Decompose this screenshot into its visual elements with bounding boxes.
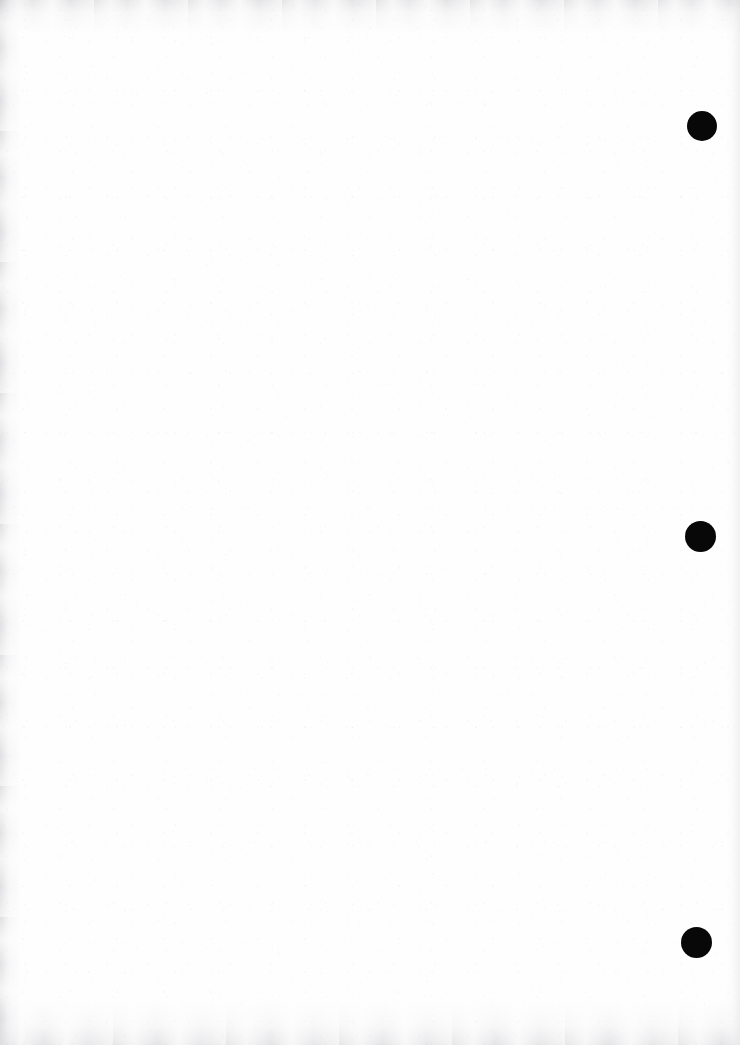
scan-edge-top <box>0 0 740 34</box>
scan-edge-right <box>726 0 740 1045</box>
scan-edge-left <box>0 0 22 1045</box>
punch-dot-3 <box>681 927 712 958</box>
paper-grain-texture <box>0 0 740 1045</box>
punch-dot-1 <box>687 111 717 141</box>
punch-dot-2 <box>685 521 716 552</box>
scan-edge-bottom <box>0 999 740 1045</box>
scanned-page <box>0 0 740 1045</box>
